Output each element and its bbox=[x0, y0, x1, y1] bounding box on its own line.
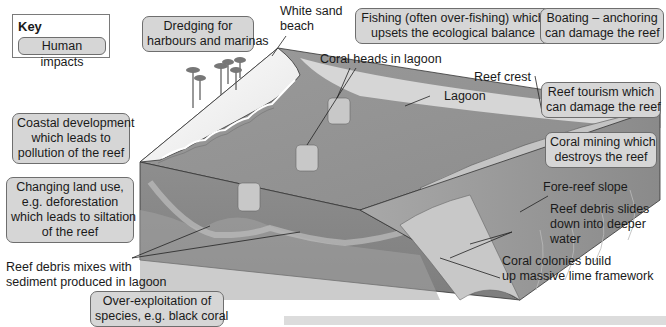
label-coral-colonies: Coral colonies build up massive lime fra… bbox=[502, 254, 653, 284]
impact-coral-mining: Coral mining which destroys the reef bbox=[545, 132, 657, 168]
label-white-sand-beach: White sand beach bbox=[280, 4, 343, 34]
impact-fishing: Fishing (often over-fishing) which upset… bbox=[355, 8, 551, 44]
label-reef-debris-mixes: Reef debris mixes with sediment produced… bbox=[6, 260, 167, 290]
impact-boating: Boating – anchoring can damage the reef bbox=[540, 8, 664, 44]
label-reef-crest: Reef crest bbox=[474, 70, 531, 85]
label-coral-heads: Coral heads in lagoon bbox=[320, 52, 442, 67]
legend-swatch-human-impacts: Human impacts bbox=[18, 37, 106, 55]
impact-coastal-development: Coastal development which leads to pollu… bbox=[12, 113, 130, 164]
legend-title: Key bbox=[18, 19, 42, 34]
caption-bar bbox=[284, 316, 666, 325]
label-reef-debris-slides: Reef debris slides down into deeper wate… bbox=[550, 202, 649, 247]
label-fore-reef-slope: Fore-reef slope bbox=[543, 180, 628, 195]
impact-over-exploitation: Over-exploitation of species, e.g. black… bbox=[90, 291, 224, 327]
impact-changing-land-use: Changing land use, e.g. deforestation wh… bbox=[6, 177, 134, 243]
legend-key: Key Human impacts bbox=[12, 14, 110, 58]
impact-reef-tourism: Reef tourism which can damage the reef bbox=[541, 82, 661, 118]
impact-dredging: Dredging for harbours and marinas bbox=[142, 16, 254, 52]
label-lagoon: Lagoon bbox=[444, 89, 486, 104]
